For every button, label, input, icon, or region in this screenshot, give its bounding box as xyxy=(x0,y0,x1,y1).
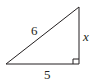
triangle-diagram: 6 x 5 xyxy=(0,0,95,81)
vertical-leg-label: x xyxy=(82,29,89,44)
hypotenuse-label: 6 xyxy=(31,23,38,38)
right-angle-marker xyxy=(73,59,79,64)
horizontal-leg-label: 5 xyxy=(44,67,51,81)
triangle xyxy=(6,7,79,64)
